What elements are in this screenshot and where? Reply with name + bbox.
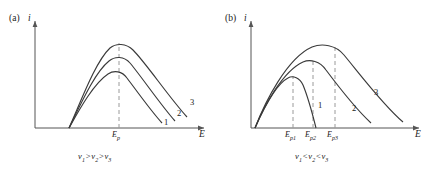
- panel-a-x-axis-label: E: [199, 130, 205, 140]
- panel-b-tick-label-ep1: Ep1: [285, 131, 296, 141]
- panel-b-tick-label-ep3: Ep3: [327, 131, 338, 141]
- panel-a-y-axis-label: i: [28, 14, 31, 24]
- panel-a-curve-label-3: 3: [190, 98, 194, 107]
- panel-b-curve-1: [255, 77, 316, 128]
- panel-a-tick-label-ep: Ep: [112, 131, 120, 141]
- panel-a-curve-2: [69, 57, 175, 128]
- panel-a-tick-label-ep-sub: p: [117, 135, 120, 141]
- panel-b-tick-label-ep3-sub: p3: [332, 135, 338, 141]
- panel-b-relation-sub-3: 3: [325, 157, 328, 163]
- panel-b-tick-label-ep1-sub: p1: [290, 135, 296, 141]
- panel-b: (b) i E 1 2 3 Ep1 Ep2 Ep3 v1<v2<v3: [219, 0, 438, 180]
- panel-a-relation: v1>v2>v3: [78, 152, 112, 163]
- panel-b-x-axis-label: E: [415, 130, 421, 140]
- panel-b-tag: (b): [225, 14, 236, 24]
- panel-a-curve-3: [69, 44, 187, 128]
- panel-a-tag: (a): [9, 14, 20, 24]
- panel-b-curve-label-2: 2: [352, 104, 356, 113]
- panel-b-relation: v1<v2<v3: [295, 152, 329, 163]
- panel-b-axes: [249, 21, 419, 130]
- panel-a-relation-sub-3: 3: [108, 157, 111, 163]
- panel-a: (a) i E 1 2 3 Ep v1>v2>v3: [0, 0, 219, 180]
- panel-b-curve-label-3: 3: [374, 88, 378, 97]
- panel-a-curve-label-2: 2: [177, 109, 181, 118]
- panel-a-curve-label-1: 1: [164, 118, 168, 127]
- panel-b-curve-label-1: 1: [318, 101, 322, 110]
- figure-canvas: (a) i E 1 2 3 Ep v1>v2>v3: [0, 0, 438, 180]
- panel-b-y-axis-label: i: [244, 14, 247, 24]
- panel-b-tick-label-ep2: Ep2: [305, 131, 316, 141]
- panel-b-tick-label-ep2-sub: p2: [310, 135, 316, 141]
